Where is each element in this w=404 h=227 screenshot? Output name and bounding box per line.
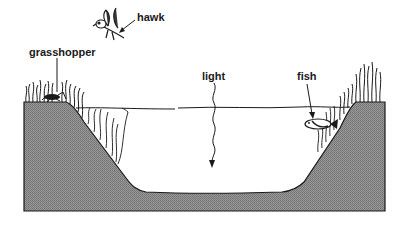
hawk-pointer bbox=[122, 20, 135, 30]
fish-pointer bbox=[307, 84, 312, 114]
grasshopper-label: grasshopper bbox=[29, 46, 96, 58]
hawk-label: hawk bbox=[137, 11, 165, 23]
fish-label: fish bbox=[297, 70, 317, 82]
light-wavy-arrow bbox=[212, 83, 215, 162]
fish-pointer-arrowhead bbox=[309, 112, 315, 119]
water-surface bbox=[76, 107, 350, 109]
light-arrowhead bbox=[209, 160, 215, 168]
fish-icon bbox=[305, 119, 338, 129]
pond-diagram: grasshopper hawk light fish bbox=[0, 0, 404, 227]
light-label: light bbox=[202, 70, 226, 82]
hawk-icon bbox=[93, 8, 124, 40]
